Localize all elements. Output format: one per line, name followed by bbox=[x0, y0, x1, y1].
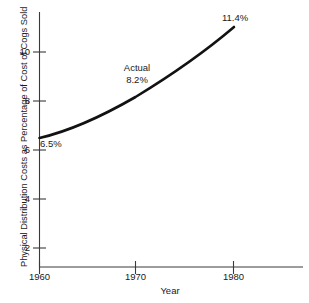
chart-figure: 10 8 6 4 2 1960 1970 1980 6.5% Actual 8.… bbox=[0, 0, 309, 303]
y-axis-title: Physical Distribution Costs as Percentag… bbox=[19, 7, 29, 267]
x-tick-label-1980: 1980 bbox=[211, 272, 256, 282]
x-tick-label-1970: 1970 bbox=[113, 272, 158, 282]
annotation-start-point: 6.5% bbox=[40, 139, 80, 149]
annotation-mid-point: 8.2% bbox=[113, 75, 161, 85]
chart-plot-area bbox=[0, 0, 309, 303]
y-axis-title-text: Physical Distribution Costs as Percentag… bbox=[19, 7, 29, 267]
annotation-series-name: Actual bbox=[113, 63, 161, 73]
x-tick-label-1960: 1960 bbox=[17, 272, 62, 282]
x-axis-title: Year bbox=[145, 286, 195, 296]
annotation-end-point: 11.4% bbox=[211, 13, 259, 23]
